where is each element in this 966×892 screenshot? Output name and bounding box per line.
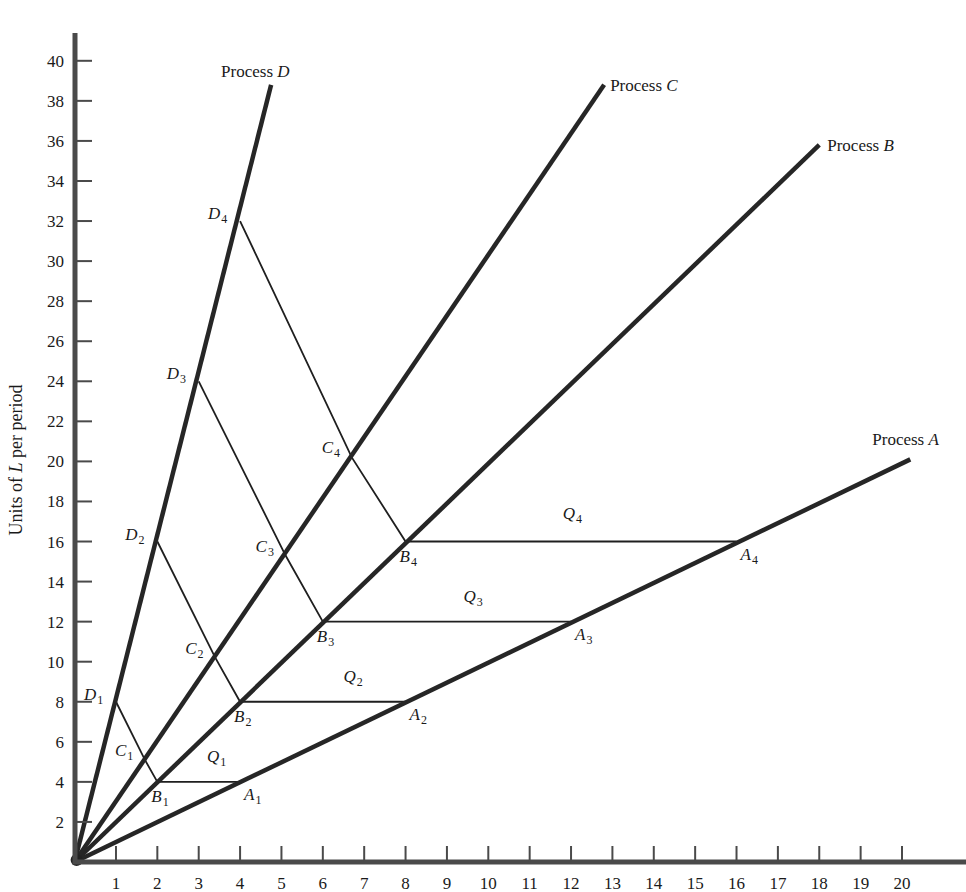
x-tick-label: 10 <box>480 874 497 892</box>
x-tick-label: 7 <box>360 874 369 892</box>
point-labels: A1A2A3A4B1B2B3B4C1C2C3C4D1D2D3D4 <box>83 204 758 809</box>
y-tick-label: 34 <box>47 172 65 191</box>
point-label-d3: D3 <box>166 364 186 386</box>
point-label-b1: B1 <box>151 787 168 809</box>
axes <box>73 33 966 864</box>
y-tick-label: 36 <box>47 132 64 151</box>
process-label-c: Process C <box>610 76 678 95</box>
x-tick-label: 5 <box>277 874 286 892</box>
x-tick-label: 2 <box>153 874 162 892</box>
y-tick-label: 16 <box>47 533 64 552</box>
x-tick-label: 1 <box>112 874 121 892</box>
isoquant-line <box>199 381 571 621</box>
x-tick-label: 19 <box>852 874 869 892</box>
process-rays <box>71 85 911 866</box>
isoquant-label-q1: Q1 <box>207 747 226 769</box>
point-label-c3: C3 <box>256 537 274 559</box>
y-tick-label: 2 <box>56 813 65 832</box>
point-label-b4: B4 <box>400 547 417 569</box>
x-tick-label: 4 <box>236 874 245 892</box>
y-tick-label: 6 <box>56 733 65 752</box>
isoquant-label-q4: Q4 <box>563 504 582 526</box>
y-tick-label: 24 <box>47 372 65 391</box>
process-label-a: Process A <box>872 430 939 449</box>
x-tick-label: 16 <box>728 874 745 892</box>
point-label-a2: A2 <box>409 705 427 727</box>
x-tick-label: 6 <box>319 874 328 892</box>
chart-canvas: 246810121416182022242628303234363840 123… <box>0 0 966 892</box>
process-label-d: Process D <box>221 62 290 81</box>
x-ticks: 1234567891011121314151617181920 <box>112 846 911 892</box>
y-tick-label: 22 <box>47 412 64 431</box>
point-label-d2: D2 <box>124 525 144 547</box>
x-tick-label: 13 <box>604 874 621 892</box>
y-axis-title-italic: L <box>6 462 26 473</box>
isoquant-line <box>240 221 736 541</box>
y-tick-label: 28 <box>47 292 64 311</box>
y-tick-label: 18 <box>47 492 64 511</box>
y-tick-label: 20 <box>47 452 64 471</box>
isoquant-group <box>116 221 737 782</box>
point-label-d1: D1 <box>83 685 103 707</box>
y-tick-label: 12 <box>47 613 64 632</box>
x-tick-label: 17 <box>769 874 787 892</box>
x-tick-label: 12 <box>563 874 580 892</box>
process-label-b: Process B <box>827 136 894 155</box>
x-tick-label: 18 <box>811 874 828 892</box>
y-tick-label: 40 <box>47 52 64 71</box>
point-label-c1: C1 <box>115 741 133 763</box>
point-label-a4: A4 <box>740 545 758 567</box>
x-tick-label: 3 <box>194 874 203 892</box>
x-tick-label: 9 <box>443 874 452 892</box>
point-label-d4: D4 <box>207 204 227 226</box>
y-axis-title-part2: per period <box>6 385 26 463</box>
process-ray-b <box>75 145 820 862</box>
isoquant-label-q2: Q2 <box>344 667 363 689</box>
point-label-a3: A3 <box>574 625 592 647</box>
y-tick-label: 26 <box>47 332 64 351</box>
y-axis-title: Units of L per period <box>6 385 26 536</box>
x-tick-label: 11 <box>521 874 537 892</box>
point-label-b3: B3 <box>317 627 334 649</box>
point-label-c4: C4 <box>322 438 340 460</box>
x-tick-label: 15 <box>687 874 704 892</box>
y-tick-label: 8 <box>56 693 65 712</box>
y-ticks: 246810121416182022242628303234363840 <box>47 52 92 832</box>
y-tick-label: 30 <box>47 252 64 271</box>
x-tick-label: 14 <box>645 874 663 892</box>
y-tick-label: 32 <box>47 212 64 231</box>
x-tick-label: 20 <box>894 874 911 892</box>
y-tick-label: 10 <box>47 653 64 672</box>
y-tick-label: 4 <box>56 773 65 792</box>
point-label-b2: B2 <box>234 707 251 729</box>
y-tick-label: 38 <box>47 92 64 111</box>
point-label-a1: A1 <box>243 785 261 807</box>
y-axis-title-part1: Units of <box>6 472 26 535</box>
isoquant-label-q3: Q3 <box>463 587 482 609</box>
x-tick-label: 8 <box>401 874 410 892</box>
y-tick-label: 14 <box>47 573 65 592</box>
point-label-c2: C2 <box>185 639 203 661</box>
process-ray-d <box>75 85 272 862</box>
process-ray-c <box>75 85 605 862</box>
